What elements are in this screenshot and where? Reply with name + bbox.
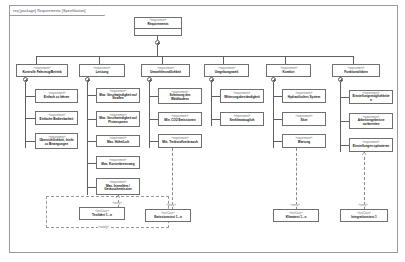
node-col-3-child-3[interactable]: «requirement» Min. Treibstoffverbrauch [158, 134, 202, 148]
connector-bus-drop-3 [162, 56, 163, 64]
connector-col-2-branch-4 [87, 163, 96, 164]
connector-col-6-branch-2 [340, 121, 349, 122]
node-col-2-header[interactable]: «requirement» Leistung [79, 64, 125, 77]
node-label: Requirements [146, 23, 169, 27]
node-stereotype: «requirement» [362, 92, 379, 95]
connector-col-3-branch-1 [149, 96, 158, 97]
connector-verify-2 [172, 148, 173, 210]
connector-col-5-branch-1 [273, 96, 282, 97]
connector-col-1-spine [25, 82, 26, 148]
node-col-3-child-2[interactable]: «requirement» Min. CO2 Emissionen [158, 112, 202, 126]
node-col-2-child-5[interactable]: «requirement» Max. Innenlärm / Geräusche… [96, 178, 140, 195]
node-stereotype: «requirement» [48, 92, 65, 95]
node-testcase-4[interactable]: «testCase» Integrationstest 1 [340, 209, 388, 222]
node-label: Klimatest 1...n [285, 216, 308, 220]
node-label: Max. Höhe/Luft [106, 141, 130, 145]
node-col-5-header[interactable]: «requirement» Komfort [266, 64, 311, 77]
node-col-4-header[interactable]: «requirement» Umgebungswelt [204, 64, 249, 77]
node-root[interactable]: «requirement» Requirements [134, 17, 182, 29]
node-stereotype: «requirement» [109, 159, 126, 162]
root-compartment [134, 29, 182, 36]
connector-verify-4 [364, 152, 365, 210]
node-col-5-child-2[interactable]: «requirement» Sitze [282, 112, 326, 126]
diagram-frame-label: req [package] Requirements [Spezifikatio… [9, 5, 105, 16]
node-label: Einstellungen optimieren [352, 145, 390, 149]
connector-col-6-branch-3 [340, 145, 349, 146]
node-col-1-child-2[interactable]: «requirement» Einfache Bedienbarkeit [35, 111, 78, 125]
node-testcase-1[interactable]: «testCase» Testfahrt 1...n [79, 207, 125, 220]
node-col-4-child-1[interactable]: «requirement» Witterungsbeständigkeit [220, 89, 264, 103]
node-label: Integrationstest 1 [350, 216, 377, 220]
node-col-6-header[interactable]: «requirement» Funktionalitäten [332, 64, 380, 77]
node-col-3-header[interactable]: «requirement» Umweltfreundlichkeit [141, 64, 190, 77]
node-label: Min. CO2 Emissionen [163, 119, 196, 123]
node-col-2-child-2[interactable]: «requirement» Max. Geschwindigkeit auf P… [96, 111, 140, 127]
node-stereotype: «requirement» [171, 91, 188, 94]
connector-col-5-branch-2 [273, 119, 282, 120]
node-label: Max. Geschwindigkeit auf Pistenspuren [98, 117, 138, 124]
connector-bus-drop-1 [36, 56, 37, 64]
node-label: Einfache Bedienbarkeit [39, 118, 75, 122]
connector-col-6-branch-1 [340, 97, 349, 98]
node-col-1-child-3[interactable]: «requirement» Übersichtlichkeit, leicht … [35, 133, 78, 149]
connector-col-3-spine [149, 82, 150, 148]
node-col-4-child-2[interactable]: «requirement» Seeklimatauglich [220, 112, 264, 126]
node-col-2-child-4[interactable]: «requirement» Max. Kurvenbremsweg [96, 156, 140, 169]
node-stereotype: «requirement» [362, 141, 379, 144]
connector-bus-drop-4 [223, 56, 224, 64]
node-stereotype: «testCase» [289, 212, 302, 215]
connector-bus-drop-6 [353, 56, 354, 64]
edge-label-verify-3: «verify» [290, 204, 300, 207]
connector-col-2-branch-2 [87, 119, 96, 120]
connector-col-2-branch-3 [87, 141, 96, 142]
node-stereotype: «requirement» [171, 115, 188, 118]
node-testcase-3[interactable]: «testCase» Klimatest 1...n [273, 209, 319, 222]
node-col-2-child-1[interactable]: «requirement» Max. Geschwindigkeit auf S… [96, 88, 140, 103]
node-label: Max. Kurvenbremsweg [100, 163, 135, 167]
node-col-6-child-3[interactable]: «requirement» Einstellungen optimieren [349, 138, 393, 152]
node-stereotype: «requirement» [48, 114, 65, 117]
connector-col-1-branch-1 [25, 96, 35, 97]
node-label: Seeklimatauglich [229, 119, 256, 123]
node-label: Einfach zu fahren [43, 96, 70, 100]
node-col-5-child-3[interactable]: «requirement» Wartung [282, 134, 326, 148]
node-stereotype: «requirement» [149, 19, 166, 22]
node-stereotype: «requirement» [109, 137, 126, 140]
node-label: Einstellungsmöglichkeiten [351, 95, 391, 102]
connector-col-4-branch-1 [211, 96, 220, 97]
node-stereotype: «requirement» [233, 92, 250, 95]
connector-bus-drop-2 [99, 56, 100, 64]
node-stereotype: «requirement» [109, 181, 126, 184]
node-label: Wartung [297, 141, 311, 145]
node-stereotype: «requirement» [295, 115, 312, 118]
node-col-6-child-1[interactable]: «requirement» Einstellungsmöglichkeiten [349, 90, 393, 104]
node-label: Testfahrt 1...n [91, 214, 113, 218]
node-col-5-child-1[interactable]: «requirement» Hydraulisches System [282, 89, 326, 103]
node-stereotype: «requirement» [157, 67, 174, 70]
connector-col-3-branch-2 [149, 119, 158, 120]
connector-col-2-spine [87, 82, 88, 195]
node-stereotype: «requirement» [362, 116, 379, 119]
connector-col-5-branch-3 [273, 141, 282, 142]
node-col-1-child-1[interactable]: «requirement» Einfach zu fahren [35, 89, 78, 103]
connector-col-6-spine [340, 82, 341, 152]
node-label: Arbeitsergebnisse vorbereiten [351, 119, 391, 126]
node-col-1-header[interactable]: «requirement» Kontrolle Fahrzeug/Betrieb [16, 64, 68, 77]
node-col-6-child-2[interactable]: «requirement» Arbeitsergebnisse vorberei… [349, 113, 393, 129]
connector-col-2-branch-1 [87, 95, 96, 96]
diagram-canvas: req [package] Requirements [Spezifikatio… [0, 0, 405, 262]
node-stereotype: «testCase» [357, 212, 370, 215]
node-stereotype: «requirement» [48, 136, 65, 139]
connector-verify-3 [296, 148, 297, 210]
arrowhead-verify-4 [362, 152, 366, 155]
node-stereotype: «requirement» [33, 67, 50, 70]
node-stereotype: «testCase» [161, 212, 174, 215]
node-col-2-child-3[interactable]: «requirement» Max. Höhe/Luft [96, 135, 140, 147]
node-stereotype: «testCase» [95, 210, 108, 213]
node-label: Hydraulisches System [287, 96, 322, 100]
node-label: Max. Innenlärm / Geräuschemission [98, 185, 138, 192]
node-stereotype: «requirement» [171, 137, 188, 140]
node-testcase-2[interactable]: «testCase» Emissionstest 1...n [145, 209, 191, 222]
node-col-3-child-1[interactable]: «requirement» Schonung des Waldbodens [158, 88, 202, 104]
node-label: Max. Geschwindigkeit auf Straßen [98, 94, 138, 101]
